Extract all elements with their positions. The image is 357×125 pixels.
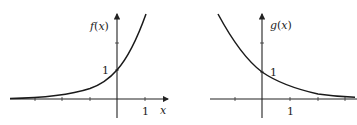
figure-canvas: 1 1 x f(x) 1 1 g(x) bbox=[0, 0, 357, 125]
x-axis-label-f: x bbox=[160, 104, 167, 117]
f-curve bbox=[10, 14, 146, 98]
y-tick-label-g: 1 bbox=[270, 66, 277, 79]
y-tick-label-f: 1 bbox=[102, 64, 109, 77]
x-tick-label-f: 1 bbox=[142, 105, 149, 118]
x-tick-label-g: 1 bbox=[287, 105, 294, 118]
y-axis-label-g: g(x) bbox=[270, 19, 292, 32]
plot-g: 1 1 g(x) bbox=[210, 14, 357, 118]
plot-f: 1 1 x f(x) bbox=[10, 14, 168, 118]
y-axis-label-f: f(x) bbox=[89, 20, 109, 33]
